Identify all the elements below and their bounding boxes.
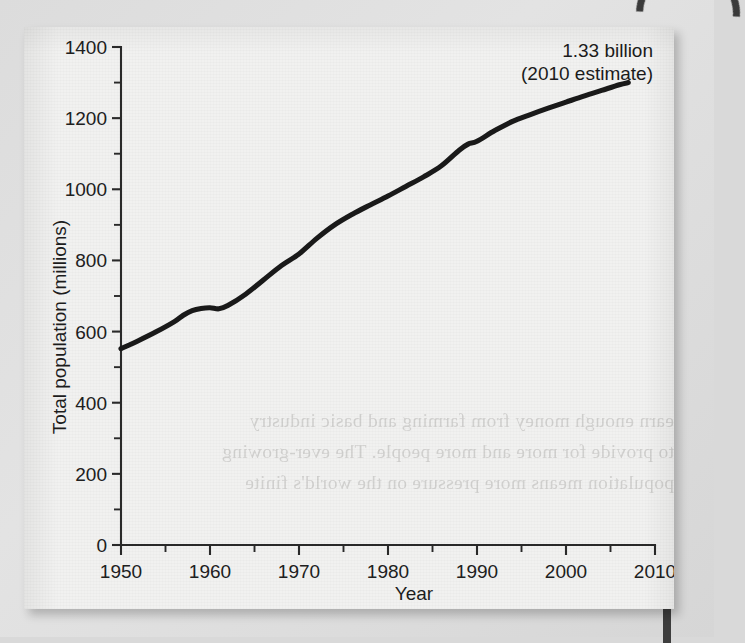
x-axis-ticks: [121, 545, 655, 555]
annotation-note: (2010 estimate): [521, 63, 653, 84]
x-tick-label: 1970: [278, 561, 320, 582]
y-axis-title: Total population (millions): [49, 220, 70, 434]
x-tick-label: 1950: [100, 561, 142, 582]
x-tick-label: 1980: [367, 561, 409, 582]
annotation-value: 1.33 billion: [562, 40, 653, 61]
x-tick-label: 2010: [634, 561, 674, 582]
x-tick-label: 2000: [545, 561, 587, 582]
y-tick-label: 1400: [65, 37, 107, 58]
chart-axes: [121, 47, 655, 545]
y-axis-ticks: [112, 47, 121, 545]
y-axis-tick-labels: 0200400600800100012001400: [65, 37, 107, 556]
population-line-chart: 0200400600800100012001400 19501960197019…: [24, 27, 674, 609]
y-tick-label: 1000: [65, 179, 107, 200]
population-series-line: [121, 83, 628, 349]
y-tick-label: 800: [75, 250, 107, 271]
y-tick-label: 400: [75, 393, 107, 414]
x-axis-title: Year: [395, 583, 434, 604]
x-axis-tick-labels: 1950196019701980199020002010: [100, 561, 674, 582]
x-tick-label: 1960: [189, 561, 231, 582]
y-tick-label: 1200: [65, 108, 107, 129]
x-tick-label: 1990: [456, 561, 498, 582]
y-tick-label: 600: [75, 322, 107, 343]
figure-card: earn enough money from farming and basic…: [24, 27, 674, 609]
y-tick-label: 200: [75, 464, 107, 485]
y-tick-label: 0: [96, 535, 107, 556]
